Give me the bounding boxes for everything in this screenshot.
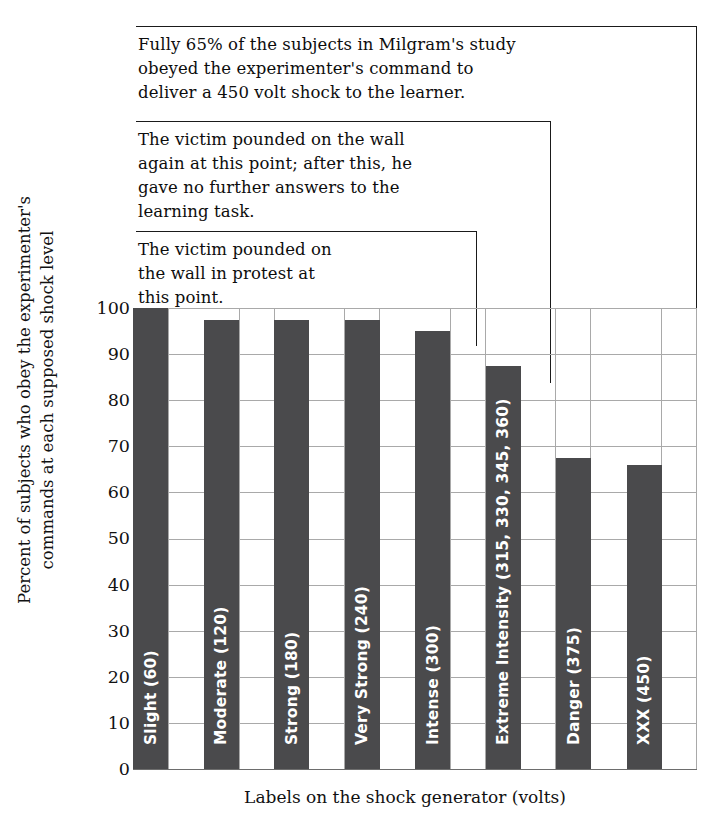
gridline-vertical [239, 308, 240, 769]
bar-label: Moderate (120) [212, 607, 230, 745]
bar-label: Slight (60) [142, 650, 160, 745]
y-tick-label: 0 [88, 759, 130, 779]
bar-strong-180[interactable]: Strong (180) [274, 320, 309, 770]
annotation-text-1: Fully 65% of the subjects in Milgram's s… [138, 33, 558, 105]
y-tick-label: 10 [88, 713, 130, 733]
y-tick-label: 80 [88, 390, 130, 410]
bar-label: Very Strong (240) [353, 586, 371, 745]
y-tick-label: 20 [88, 667, 130, 687]
bar-extreme-intensity-315-330-345-360[interactable]: Extreme Intensity (315, 330, 345, 360) [486, 366, 521, 769]
annotation-text-2: The victim pounded on the wall again at … [138, 128, 538, 224]
bar-moderate-120[interactable]: Moderate (120) [204, 320, 239, 770]
annotation-text-3: The victim pounded on the wall in protes… [138, 238, 438, 310]
annotation-bracket-top-2 [136, 121, 551, 122]
bar-label: Strong (180) [283, 632, 301, 745]
plot-area: Slight (60) Moderate (120) Strong (180) … [133, 308, 697, 769]
y-tick-label: 90 [88, 344, 130, 364]
y-tick-label: 40 [88, 575, 130, 595]
chart-canvas: Fully 65% of the subjects in Milgram's s… [0, 0, 716, 831]
bar-label: Intense (300) [424, 625, 442, 745]
x-axis-baseline [133, 769, 697, 770]
bar-slight-60[interactable]: Slight (60) [133, 308, 168, 769]
annotation-bracket-top-1 [136, 26, 697, 27]
gridline-horizontal [133, 308, 697, 309]
x-axis-title: Labels on the shock generator (volts) [110, 787, 700, 807]
gridline-vertical [168, 308, 169, 769]
bar-intense-300[interactable]: Intense (300) [415, 331, 450, 769]
bar-danger-375[interactable]: Danger (375) [556, 458, 591, 769]
bar-very-strong-240[interactable]: Very Strong (240) [345, 320, 380, 770]
annotation-bracket-top-3 [136, 231, 477, 232]
bar-label: Extreme Intensity (315, 330, 345, 360) [494, 399, 512, 745]
y-tick-label: 30 [88, 621, 130, 641]
bar-label: XXX (450) [635, 655, 653, 745]
y-tick-label: 100 [88, 298, 130, 318]
y-axis-title: Percent of subjects who obey the experim… [13, 150, 59, 650]
gridline-vertical [696, 308, 697, 769]
y-tick-label: 50 [88, 528, 130, 548]
bar-xxx-450[interactable]: XXX (450) [627, 465, 662, 769]
bar-label: Danger (375) [565, 627, 583, 745]
y-tick-label: 70 [88, 436, 130, 456]
y-tick-label: 60 [88, 482, 130, 502]
